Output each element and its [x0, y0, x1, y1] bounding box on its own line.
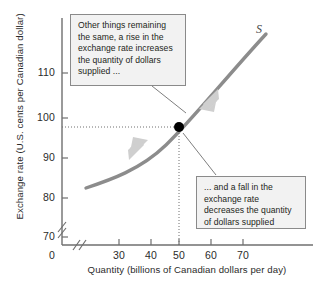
callout-rise-line-2: the same, a rise in the — [78, 32, 179, 44]
supply-curve-label: S — [256, 22, 262, 37]
supply-curve-figure: 110 100 90 80 70 0 30 40 50 60 70 Exchan… — [0, 0, 318, 287]
callout-fall-line-1: ... and a fall in the — [204, 182, 299, 194]
x-tick-label-60: 60 — [199, 249, 223, 261]
y-axis-title: Exchange rate (U.S. cents per Canadian d… — [14, 24, 25, 220]
x-axis-title: Quantity (billions of Canadian dollars p… — [62, 264, 312, 275]
y-tick-label-110: 110 — [31, 66, 55, 78]
callout-fall-leader — [183, 133, 216, 175]
callout-rise-line-5: supplied ... — [78, 66, 179, 78]
annotation-callout-rise: Other things remaining the same, a rise … — [70, 14, 186, 86]
x-tick-label-30: 30 — [107, 249, 131, 261]
callout-rise-line-4: the quantity of dollars — [78, 55, 179, 67]
y-tick-label-70: 70 — [31, 230, 55, 242]
annotation-callout-fall: ... and a fall in the exchange rate decr… — [196, 176, 306, 229]
x-axis-ticks — [119, 239, 243, 245]
callout-fall-line-2: exchange rate — [204, 194, 299, 206]
x-tick-label-40: 40 — [139, 249, 163, 261]
callout-fall-line-3: decreases the quantity — [204, 205, 299, 217]
x-tick-label-70: 70 — [231, 249, 255, 261]
equilibrium-point — [174, 122, 184, 132]
y-axis-ticks — [62, 73, 68, 237]
x-tick-label-50: 50 — [167, 249, 191, 261]
y-tick-label-100: 100 — [31, 111, 55, 123]
callout-fall-line-4: of dollars supplied — [204, 217, 299, 229]
y-tick-label-90: 90 — [31, 151, 55, 163]
callout-rise-line-3: exchange rate increases — [78, 43, 179, 55]
y-tick-label-80: 80 — [31, 191, 55, 203]
increase-arrow-icon — [199, 89, 219, 112]
origin-label: 0 — [31, 249, 55, 261]
decrease-arrow-icon — [128, 137, 148, 160]
callout-rise-line-1: Other things remaining — [78, 20, 179, 32]
callout-rise-leader — [152, 86, 186, 113]
